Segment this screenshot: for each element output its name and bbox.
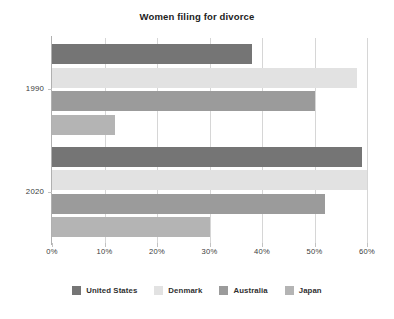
bar-japan-2020: [52, 217, 210, 237]
legend-swatch-icon: [285, 286, 294, 295]
legend-swatch-icon: [219, 286, 228, 295]
y-axis-category-label: 1990: [0, 84, 44, 93]
bar-denmark-1990: [52, 68, 357, 88]
bar-japan-1990: [52, 115, 115, 135]
bar-united-states-2020: [52, 147, 362, 167]
legend-swatch-icon: [72, 286, 81, 295]
legend-label: United States: [86, 286, 137, 295]
legend-label: Australia: [233, 286, 267, 295]
x-axis-tick-label: 10%: [97, 247, 113, 256]
bar-australia-2020: [52, 194, 325, 214]
y-axis-tick: [48, 192, 52, 193]
legend-item-denmark[interactable]: Denmark: [154, 286, 202, 295]
legend-item-united-states[interactable]: United States: [72, 286, 137, 295]
legend-label: Japan: [299, 286, 322, 295]
x-axis-tick-label: 40%: [254, 247, 270, 256]
x-axis-tick-label: 0%: [46, 247, 57, 256]
plot-area: [52, 38, 367, 243]
x-axis-tick-label: 50%: [307, 247, 323, 256]
x-gridline: [367, 38, 368, 243]
x-axis-tick-label: 60%: [359, 247, 375, 256]
y-axis-tick: [48, 89, 52, 90]
legend-label: Denmark: [168, 286, 202, 295]
y-axis-category-label: 2020: [0, 187, 44, 196]
chart-legend: United StatesDenmarkAustraliaJapan: [0, 286, 394, 295]
x-axis-tick-label: 30%: [202, 247, 218, 256]
bar-australia-1990: [52, 91, 315, 111]
legend-item-australia[interactable]: Australia: [219, 286, 267, 295]
bar-denmark-2020: [52, 170, 367, 190]
legend-swatch-icon: [154, 286, 163, 295]
bar-united-states-1990: [52, 44, 252, 64]
legend-item-japan[interactable]: Japan: [285, 286, 322, 295]
chart-title: Women filing for divorce: [0, 11, 394, 22]
x-axis-tick-label: 20%: [149, 247, 165, 256]
bar-chart: Women filing for divorce United StatesDe…: [0, 0, 394, 319]
